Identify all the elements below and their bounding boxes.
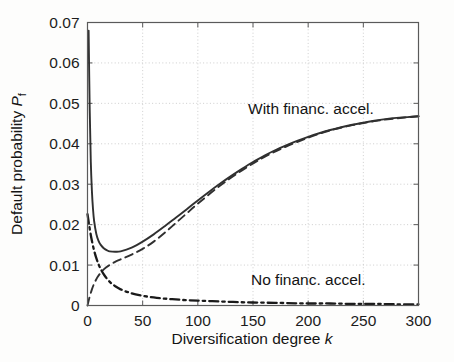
x-tick-label: 200	[295, 312, 321, 329]
y-tick-label: 0.04	[49, 135, 80, 152]
y-tick-label: 0.01	[49, 257, 79, 274]
x-axis-title: Diversification degree k	[171, 330, 333, 347]
y-tick-label: 0.06	[49, 54, 79, 71]
figure-container: 050100150200250300 00.010.020.030.040.05…	[0, 0, 454, 362]
annotation-no-financ-accel: No financ. accel.	[251, 271, 366, 288]
y-tick-label: 0	[71, 297, 80, 314]
annotation-with-financ-accel: With financ. accel.	[248, 100, 374, 117]
y-tick-label: 0.05	[49, 95, 79, 112]
y-tick-label: 0.07	[49, 14, 79, 31]
x-tick-label: 0	[83, 312, 92, 329]
x-tick-label: 300	[406, 312, 432, 329]
y-tick-label: 0.03	[49, 176, 79, 193]
x-tick-label: 50	[134, 312, 152, 329]
default-probability-chart: 050100150200250300 00.010.020.030.040.05…	[0, 0, 454, 362]
y-tick-label: 0.02	[49, 216, 79, 233]
x-tick-label: 100	[185, 312, 211, 329]
x-tick-label: 250	[350, 312, 376, 329]
x-tick-label: 150	[240, 312, 266, 329]
